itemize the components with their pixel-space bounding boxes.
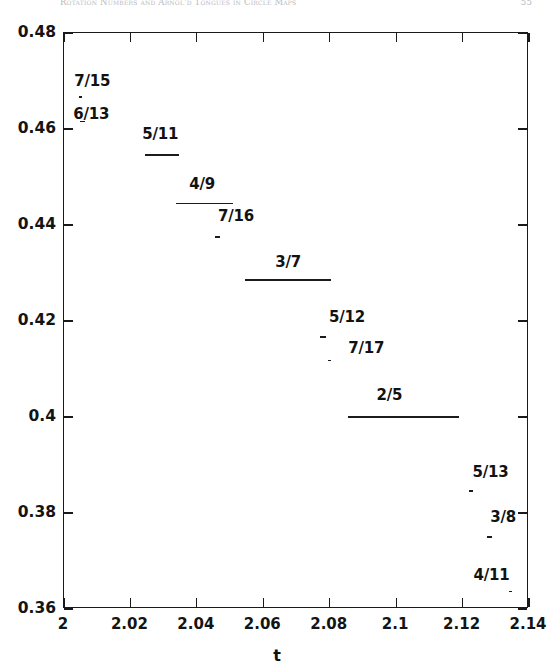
step-label: 2/5 <box>377 386 403 404</box>
staircase-step <box>328 360 331 362</box>
y-tick-left <box>64 128 73 129</box>
x-tick-top <box>528 33 529 42</box>
y-tick-label: 0.36 <box>18 599 56 617</box>
y-tick-label: 0.44 <box>18 215 56 233</box>
step-label: 5/12 <box>329 308 365 326</box>
y-tick-left <box>64 512 73 513</box>
x-tick-bottom <box>329 598 330 607</box>
y-tick-right <box>518 416 527 417</box>
page-number: 55 <box>521 0 532 7</box>
x-tick-top <box>196 33 197 42</box>
x-tick-bottom <box>528 598 529 607</box>
x-tick-bottom <box>263 598 264 607</box>
x-tick-bottom <box>130 598 131 607</box>
step-label: 5/13 <box>472 463 508 481</box>
running-head: Rotation Numbers and Arnol'd Tongues in … <box>0 0 554 11</box>
x-tick-bottom <box>462 598 463 607</box>
step-label: 4/11 <box>473 566 509 584</box>
y-tick-right <box>518 512 527 513</box>
y-tick-label: 0.46 <box>18 119 56 137</box>
y-tick-label: 0.48 <box>18 23 56 41</box>
staircase-step <box>245 279 331 281</box>
x-tick-label: 2.02 <box>111 615 148 633</box>
staircase-step <box>145 154 178 156</box>
x-tick-label: 2.08 <box>310 615 347 633</box>
figure-page: Rotation Numbers and Arnol'd Tongues in … <box>0 0 554 671</box>
x-tick-label: 2.06 <box>244 615 281 633</box>
staircase-step <box>79 96 82 98</box>
step-label: 3/7 <box>275 253 301 271</box>
step-label: 4/9 <box>189 175 215 193</box>
staircase-step <box>487 536 492 538</box>
staircase-step <box>320 336 327 338</box>
x-tick-top <box>329 33 330 42</box>
step-label: 3/8 <box>490 508 516 526</box>
x-tick-label: 2 <box>58 615 68 633</box>
x-tick-top <box>396 33 397 42</box>
x-axis-title: t <box>0 646 554 665</box>
staircase-step <box>469 490 474 492</box>
y-tick-label: 0.38 <box>18 503 56 521</box>
x-tick-top <box>63 33 64 42</box>
x-tick-bottom <box>396 598 397 607</box>
y-tick-right <box>518 128 527 129</box>
staircase-step <box>176 203 233 205</box>
plot-area <box>63 32 528 608</box>
y-tick-label: 0.42 <box>18 311 56 329</box>
y-tick-right <box>518 32 527 33</box>
x-tick-label: 2.14 <box>509 615 546 633</box>
staircase-step <box>215 236 220 238</box>
y-tick-left <box>64 224 73 225</box>
step-label: 6/13 <box>73 105 109 123</box>
x-tick-label: 2.12 <box>443 615 480 633</box>
x-tick-top <box>130 33 131 42</box>
y-tick-left <box>64 32 73 33</box>
step-label: 7/15 <box>74 72 110 90</box>
x-tick-label: 2.1 <box>382 615 409 633</box>
x-tick-label: 2.04 <box>177 615 214 633</box>
x-tick-top <box>263 33 264 42</box>
y-tick-label: 0.4 <box>29 407 56 425</box>
staircase-step <box>348 416 459 418</box>
y-tick-right <box>518 320 527 321</box>
y-tick-right <box>518 224 527 225</box>
x-tick-bottom <box>63 598 64 607</box>
y-tick-right <box>518 608 527 609</box>
step-label: 5/11 <box>142 125 178 143</box>
step-label: 7/17 <box>348 339 384 357</box>
y-tick-left <box>64 416 73 417</box>
running-head-title: Rotation Numbers and Arnol'd Tongues in … <box>60 0 296 7</box>
y-tick-left <box>64 320 73 321</box>
staircase-step <box>509 591 512 593</box>
step-label: 7/16 <box>218 207 254 225</box>
x-tick-top <box>462 33 463 42</box>
x-tick-bottom <box>196 598 197 607</box>
y-tick-left <box>64 608 73 609</box>
